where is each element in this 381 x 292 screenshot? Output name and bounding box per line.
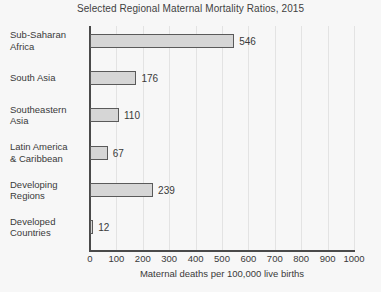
- category-label-line: Regions: [10, 190, 86, 202]
- bar-row: 546: [90, 34, 354, 48]
- bar-row: 176: [90, 71, 354, 85]
- bar-row: 12: [90, 220, 354, 234]
- chart-title: Selected Regional Maternal Mortality Rat…: [0, 3, 381, 14]
- x-tick-label: 200: [135, 253, 151, 264]
- category-label-line: Asia: [10, 115, 86, 127]
- gridline: [248, 26, 249, 250]
- chart-container: Selected Regional Maternal Mortality Rat…: [0, 0, 381, 292]
- bar-value-label: 67: [113, 147, 124, 158]
- bar[interactable]: [90, 108, 119, 122]
- bar-row: 110: [90, 108, 354, 122]
- category-label: SoutheasternAsia: [10, 104, 86, 127]
- bar[interactable]: [90, 146, 108, 160]
- bar-value-label: 546: [239, 35, 256, 46]
- gridline: [354, 26, 355, 250]
- gridline: [301, 26, 302, 250]
- x-tick-label: 0: [87, 253, 92, 264]
- x-tick-label: 800: [293, 253, 309, 264]
- category-label-line: Latin America: [10, 141, 86, 153]
- category-label-line: Africa: [10, 41, 86, 53]
- category-label-line: & Caribbean: [10, 153, 86, 165]
- plot-area: [90, 26, 354, 250]
- category-label-line: Countries: [10, 227, 86, 239]
- gridline: [196, 26, 197, 250]
- gridline: [116, 26, 117, 250]
- category-label: Latin America& Caribbean: [10, 141, 86, 164]
- category-label: South Asia: [10, 72, 86, 84]
- bar-value-label: 12: [98, 222, 109, 233]
- x-tick-label: 100: [108, 253, 124, 264]
- bar[interactable]: [90, 183, 153, 197]
- category-label-line: Southeastern: [10, 104, 86, 116]
- x-tick-label: 600: [240, 253, 256, 264]
- bar[interactable]: [90, 71, 136, 85]
- bar-value-label: 176: [141, 73, 158, 84]
- x-tick-label: 1000: [343, 253, 364, 264]
- x-tick-label: 300: [161, 253, 177, 264]
- gridline: [222, 26, 223, 250]
- category-label-line: South Asia: [10, 72, 86, 84]
- category-label: DevelopingRegions: [10, 179, 86, 202]
- x-tick-label: 700: [267, 253, 283, 264]
- bar[interactable]: [90, 34, 234, 48]
- bar[interactable]: [90, 220, 93, 234]
- category-label: DevelopedCountries: [10, 216, 86, 239]
- gridline: [169, 26, 170, 250]
- bar-value-label: 110: [124, 110, 140, 121]
- y-axis-line: [89, 26, 91, 251]
- x-tick-label: 900: [320, 253, 336, 264]
- x-axis-line: [89, 250, 355, 252]
- gridline: [143, 26, 144, 250]
- gridline: [275, 26, 276, 250]
- category-label-line: Developed: [10, 216, 86, 228]
- x-tick-label: 400: [188, 253, 204, 264]
- x-tick-label: 500: [214, 253, 230, 264]
- gridline: [328, 26, 329, 250]
- bar-value-label: 239: [158, 185, 175, 196]
- bar-row: 239: [90, 183, 354, 197]
- x-axis-title: Maternal deaths per 100,000 live births: [90, 268, 354, 279]
- category-label-line: Developing: [10, 179, 86, 191]
- category-label: Sub-SaharanAfrica: [10, 29, 86, 52]
- bar-row: 67: [90, 146, 354, 160]
- category-label-line: Sub-Saharan: [10, 29, 86, 41]
